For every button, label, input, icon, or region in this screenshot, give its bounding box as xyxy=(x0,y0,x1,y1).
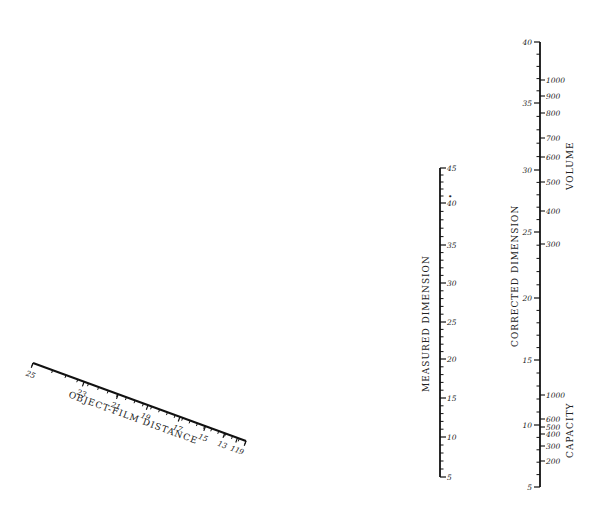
tick-label: 35 xyxy=(447,241,457,250)
tick-label: 400 xyxy=(545,207,561,216)
tick-label: 15 xyxy=(522,356,532,365)
tick-label: 200 xyxy=(545,457,561,466)
measured-dimension-scale: 45403530252015105• xyxy=(440,164,457,482)
tick-label: 40 xyxy=(521,38,532,47)
corrected-dimension-title: CORRECTED DIMENSION xyxy=(510,205,520,347)
tick-label: 20 xyxy=(446,355,457,364)
tick-label: 600 xyxy=(546,153,561,162)
tick-label: 900 xyxy=(546,92,561,101)
tick-label: 25 xyxy=(521,228,532,237)
tick-label: 10 xyxy=(522,421,532,430)
tick-label: 5 xyxy=(527,483,532,492)
tick-label: 10 xyxy=(447,433,457,442)
tick-label: 35 xyxy=(522,99,532,108)
tick-label: 300 xyxy=(546,442,561,451)
tick-label: 5 xyxy=(447,473,452,482)
measured-dimension-title: MEASURED DIMENSION xyxy=(421,255,431,392)
capacity-title: CAPACITY xyxy=(565,402,575,458)
tick-label: 1000 xyxy=(546,391,565,400)
marker-dot: • xyxy=(448,192,452,201)
capacity-scale: 1000600500400300200 xyxy=(540,391,565,466)
tick-label: 30 xyxy=(522,166,532,175)
tick-label: 700 xyxy=(546,134,561,143)
object-film-distance-scale: 25232119171513119 xyxy=(24,363,246,457)
volume-title: VOLUME xyxy=(565,141,575,191)
tick-label: 1000 xyxy=(546,76,565,85)
volume-scale: 1000900800700600500400300 xyxy=(540,76,565,249)
tick-label: 15 xyxy=(447,394,457,403)
tick-label: 13 xyxy=(216,439,228,451)
tick-label: 30 xyxy=(447,279,457,288)
tick-label: 500 xyxy=(546,178,561,187)
tick-label: 20 xyxy=(521,294,532,303)
tick-label: 300 xyxy=(546,240,561,249)
nomogram-canvas: 25232119171513119 OBJECT-FILM DISTANCE 4… xyxy=(0,0,596,524)
tick-label: 25 xyxy=(446,318,457,327)
tick-label: 400 xyxy=(545,430,561,439)
tick-label: 45 xyxy=(446,164,457,173)
tick-label: 25 xyxy=(24,368,37,380)
tick-label: 800 xyxy=(546,109,561,118)
corrected-dimension-scale: 403530252015105 xyxy=(521,38,540,492)
